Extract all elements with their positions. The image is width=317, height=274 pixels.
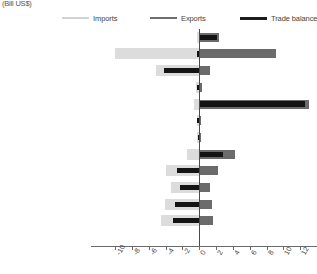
bar-row: Northern Africa — [115, 112, 317, 129]
bar-row: Developed N. America — [115, 62, 317, 79]
bar-trade-balance — [164, 68, 199, 73]
bar-trade-balance — [199, 101, 305, 106]
x-tick-label: -6 — [148, 246, 159, 256]
trade-balance-chart: (Bill US$) Imports Exports Trade balance… — [0, 0, 317, 274]
legend-item-trade-balance: Trade balance — [240, 12, 317, 24]
bar-rows: Developed Asia-PacificDeveloped EuropeDe… — [115, 29, 317, 246]
bar-exports — [199, 216, 213, 225]
legend-label-imports: Imports — [93, 14, 117, 23]
chart-legend: Imports Exports Trade balance — [62, 12, 312, 24]
legend-swatch-imports — [62, 17, 89, 19]
bar-trade-balance — [175, 202, 199, 207]
bar-row: C I S — [115, 96, 317, 113]
x-tick-label: -8 — [131, 246, 142, 256]
bar-row: Developed Europe — [115, 46, 317, 63]
legend-swatch-exports — [150, 17, 177, 20]
x-axis: -10-8-6-4-202468101214 — [115, 246, 317, 274]
bar-exports — [199, 166, 218, 175]
bar-trade-balance — [177, 168, 199, 173]
legend-item-exports: Exports — [150, 12, 206, 24]
bar-row: Oceania — [115, 229, 317, 246]
bar-row: South-eastern Europe — [115, 79, 317, 96]
bar-exports — [199, 200, 212, 209]
bar-exports — [199, 66, 210, 75]
legend-swatch-trade-balance — [240, 17, 267, 20]
bar-row: Latin Am, Caribbean — [115, 146, 317, 163]
bar-row: Southern Asia — [115, 179, 317, 196]
x-tick-label: -4 — [165, 246, 176, 256]
legend-item-imports: Imports — [62, 12, 117, 24]
bar-imports — [115, 48, 199, 59]
x-tick-label: 2 — [215, 249, 225, 257]
legend-label-trade-balance: Trade balance — [271, 14, 317, 23]
bar-trade-balance — [173, 218, 199, 223]
units-caption: (Bill US$) — [2, 0, 32, 8]
bar-exports — [199, 49, 276, 58]
bar-row: Eastern Asia — [115, 163, 317, 180]
bar-trade-balance — [199, 152, 223, 157]
x-tick-label: 0 — [198, 249, 208, 257]
bar-row: Sub-Saharan Africa — [115, 129, 317, 146]
bar-row: Developed Asia-Pacific — [115, 29, 317, 46]
x-tick-label: 4 — [232, 249, 242, 257]
bar-trade-balance — [180, 185, 199, 190]
bar-imports — [187, 149, 199, 160]
x-tick-label: 8 — [266, 249, 276, 257]
plot-area: Developed Asia-PacificDeveloped EuropeDe… — [115, 29, 317, 246]
x-tick-label: -2 — [181, 246, 192, 256]
zero-axis-line — [199, 29, 200, 246]
x-tick-label: 6 — [249, 249, 259, 257]
legend-label-exports: Exports — [181, 14, 206, 23]
bar-trade-balance — [199, 35, 217, 40]
bar-row: Western Asia — [115, 213, 317, 230]
bar-row: South-eastern Asia — [115, 196, 317, 213]
bar-exports — [199, 183, 210, 192]
